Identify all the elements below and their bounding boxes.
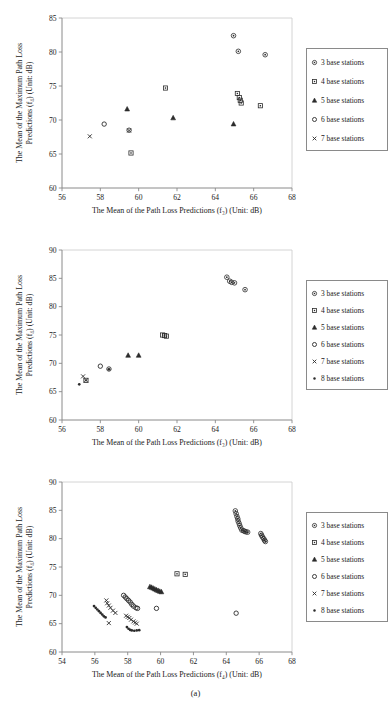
svg-text:90: 90 [49,478,57,487]
triangle-icon [310,555,319,564]
svg-text:80: 80 [49,48,57,57]
circle-icon [310,340,319,349]
series-5-base-stations [126,353,141,357]
svg-text:The Mean of the Maximum Path L: The Mean of the Maximum Path Loss [15,507,24,627]
legend-item-7-base-stations: 7 base stations [307,129,387,148]
legend-label: 3 base stations [321,59,364,66]
series-5-base-stations [125,107,236,126]
legend-item-5-base-stations: 5 base stations [307,91,387,110]
chart-3-y-ticks: 60657075808590 [49,478,62,657]
svg-text:60: 60 [49,648,57,657]
legend-label: 4 base stations [321,78,364,85]
svg-text:62: 62 [173,193,181,202]
circle-icon [310,115,319,124]
legend-item-7-base-stations: 7 base stations [307,353,387,370]
chart-2-points [78,275,247,386]
legend-item-3-base-stations: 3 base stations [307,517,387,534]
figure-root: 56586062646668606570758085The Mean of th… [0,0,391,706]
square-icon [310,538,319,547]
series-6-base-stations [102,122,131,133]
svg-text:70: 70 [49,116,57,125]
svg-text:65: 65 [49,619,57,628]
svg-text:65: 65 [49,387,57,396]
circle-dot-icon [310,58,319,67]
legend-label: 6 base stations [321,341,364,348]
chart-3-points [93,509,268,632]
svg-text:68: 68 [288,193,296,202]
chart-2-xlabel: The Mean of the Path Loss Predictions (f… [92,438,262,447]
legend-label: 5 base stations [321,556,364,563]
svg-text:56: 56 [58,425,66,434]
circle-dot-icon [310,521,319,530]
svg-text:64: 64 [212,425,220,434]
svg-text:85: 85 [49,14,57,23]
chart-panel-3: 545658606264666860657075808590The Mean o… [0,464,391,696]
chart-1-xlabel: The Mean of the Path Loss Predictions (f… [92,206,262,215]
legend-label: 4 base stations [321,307,364,314]
legend-item-5-base-stations: 5 base stations [307,319,387,336]
svg-text:62: 62 [173,425,181,434]
series-4-base-stations [84,333,169,383]
chart-1-y-ticks: 606570758085 [49,14,62,193]
chart-3-x-ticks: 5456586062646668 [58,652,296,666]
series-3-base-stations [231,33,267,57]
legend-item-6-base-stations: 6 base stations [307,568,387,585]
legend-item-6-base-stations: 6 base stations [307,110,387,129]
svg-text:85: 85 [49,274,57,283]
circle-icon [310,572,319,581]
svg-text:54: 54 [58,657,66,666]
svg-text:70: 70 [49,591,57,600]
series-4-base-stations [129,86,263,155]
svg-text:75: 75 [49,331,57,340]
svg-text:68: 68 [288,657,296,666]
svg-text:The Mean of the Maximum Path L: The Mean of the Maximum Path Loss [15,275,24,395]
chart-2-axes [62,250,292,420]
chart-3-ylabel: The Mean of the Maximum Path LossPredict… [15,507,34,627]
square-icon [310,77,319,86]
legend-label: 7 base stations [321,135,364,142]
legend-label: 6 base stations [321,573,364,580]
legend-item-7-base-stations: 7 base stations [307,585,387,602]
legend-label: 5 base stations [321,324,364,331]
cross-x-icon [310,357,319,366]
svg-text:Predictions (f₄) (Unit: dB): Predictions (f₄) (Unit: dB) [25,525,34,608]
svg-text:80: 80 [49,534,57,543]
svg-text:62: 62 [190,657,198,666]
legend-label: 8 base stations [321,375,364,382]
legend-item-6-base-stations: 6 base stations [307,336,387,353]
svg-text:64: 64 [222,657,230,666]
series-4-base-stations [175,572,187,577]
svg-text:66: 66 [255,657,263,666]
chart-2-y-ticks: 60657075808590 [49,246,62,425]
cross-x-icon [310,134,319,143]
svg-text:70: 70 [49,359,57,368]
svg-text:58: 58 [97,425,105,434]
chart-1-legend: 3 base stations4 base stations5 base sta… [306,48,388,151]
legend-item-4-base-stations: 4 base stations [307,534,387,551]
svg-text:66: 66 [250,193,258,202]
legend-label: 3 base stations [321,290,364,297]
svg-text:80: 80 [49,302,57,311]
circle-dot-icon [310,289,319,298]
svg-text:68: 68 [288,425,296,434]
svg-text:60: 60 [135,425,143,434]
svg-text:56: 56 [91,657,99,666]
legend-item-3-base-stations: 3 base stations [307,285,387,302]
chart-3-xlabel: The Mean of the Path Loss Predictions (f… [92,670,262,679]
dot-icon [310,374,319,383]
chart-2-ylabel: The Mean of the Maximum Path LossPredict… [15,275,34,395]
svg-text:58: 58 [124,657,132,666]
legend-label: 4 base stations [321,539,364,546]
chart-3-axes [62,482,292,652]
series-7-base-stations [88,129,131,139]
svg-text:75: 75 [49,563,57,572]
svg-text:56: 56 [58,193,66,202]
triangle-icon [310,96,319,105]
series-6-base-stations [121,593,238,615]
cross-x-icon [310,589,319,598]
svg-text:75: 75 [49,82,57,91]
svg-text:60: 60 [49,184,57,193]
svg-text:Predictions (f₄) (Unit: dB): Predictions (f₄) (Unit: dB) [25,61,34,144]
legend-label: 7 base stations [321,590,364,597]
series-5-base-stations [148,584,164,594]
